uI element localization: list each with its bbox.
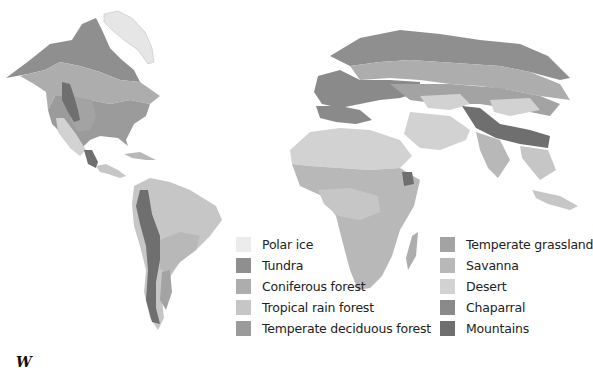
legend-item-coniferous-forest: Coniferous forest xyxy=(236,277,431,296)
legend-label: Savanna xyxy=(466,258,519,273)
mountains-swatch xyxy=(440,321,455,336)
southeast-asia xyxy=(520,146,556,180)
legend-item-tropical-rain-forest: Tropical rain forest xyxy=(236,298,431,317)
middle-east-desert xyxy=(404,112,470,150)
legend-item-desert: Desert xyxy=(440,277,593,296)
legend-label: Temperate deciduous forest xyxy=(262,321,431,336)
savanna-swatch xyxy=(440,258,455,273)
coniferous-forest-swatch xyxy=(236,279,251,294)
legend-label: Tropical rain forest xyxy=(262,300,374,315)
tundra-swatch xyxy=(236,258,251,273)
indonesia-islands xyxy=(532,190,578,210)
legend-item-savanna: Savanna xyxy=(440,256,593,275)
legend-item-polar-ice: Polar ice xyxy=(236,235,431,254)
legend-label: Desert xyxy=(466,279,506,294)
temperate-grassland-swatch xyxy=(440,237,455,252)
cutoff-caption-text: W xyxy=(16,354,32,370)
south-america-savanna xyxy=(160,232,200,276)
legend-item-chaparral: Chaparral xyxy=(440,298,593,317)
legend-item-mountains: Mountains xyxy=(440,319,593,338)
legend-label: Temperate grassland xyxy=(466,237,593,252)
tropical-rain-forest-swatch xyxy=(236,300,251,315)
chaparral-swatch xyxy=(440,300,455,315)
legend-label: Polar ice xyxy=(262,237,313,252)
caribbean-islands xyxy=(124,152,156,160)
legend-item-tundra: Tundra xyxy=(236,256,431,275)
mexico-mountains xyxy=(84,150,98,168)
legend-item-temperate-deciduous-forest: Temperate deciduous forest xyxy=(236,319,431,338)
legend-column-2: Temperate grassland Savanna Desert Chapa… xyxy=(440,235,593,340)
mediterranean-chaparral xyxy=(316,106,372,124)
temperate-deciduous-forest-swatch xyxy=(236,321,251,336)
polar-ice-swatch xyxy=(236,237,251,252)
legend-label: Mountains xyxy=(466,321,529,336)
ethiopia-mountains xyxy=(402,172,414,186)
desert-swatch xyxy=(440,279,455,294)
legend-item-temperate-grassland: Temperate grassland xyxy=(440,235,593,254)
legend-label: Tundra xyxy=(262,258,303,273)
legend-label: Chaparral xyxy=(466,300,525,315)
central-america xyxy=(96,164,126,178)
legend-label: Coniferous forest xyxy=(262,279,365,294)
africa-desert xyxy=(290,128,412,170)
legend-column-1: Polar ice Tundra Coniferous forest Tropi… xyxy=(236,235,431,340)
